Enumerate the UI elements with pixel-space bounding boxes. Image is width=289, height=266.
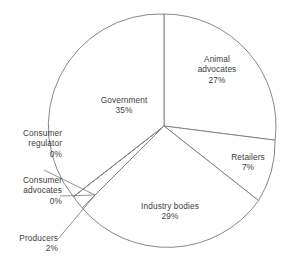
slice-label-name: Consumer xyxy=(0,128,62,138)
slice-label-value: 35% xyxy=(87,105,161,115)
slice-label-name: Retailers xyxy=(222,152,274,162)
slice-label-name-cont: regulator xyxy=(0,138,62,148)
slice-label-producers: Producers 2% xyxy=(0,233,58,254)
slice-label-name: Government xyxy=(87,95,161,105)
slice-label-retailers: Retailers 7% xyxy=(222,152,274,173)
slice-label-industry-bodies: Industry bodies 29% xyxy=(132,201,208,222)
slice-label-value: 2% xyxy=(0,243,58,253)
slice-label-value: 0% xyxy=(0,196,62,206)
slice-label-consumer-advocates: Consumer advocates 0% xyxy=(0,175,62,206)
slice-label-consumer-regulator: Consumer regulator 0% xyxy=(0,128,62,159)
slice-label-name-cont: advocates xyxy=(186,64,248,74)
slice-label-animal-advocates: Animal advocates 27% xyxy=(186,54,248,85)
slice-label-name: Industry bodies xyxy=(132,201,208,211)
slice-label-value: 7% xyxy=(222,162,274,172)
slice-label-value: 0% xyxy=(0,149,62,159)
slice-label-name: Animal xyxy=(186,54,248,64)
slice-label-name: Consumer xyxy=(0,175,62,185)
slice-label-value: 29% xyxy=(132,211,208,221)
pie-chart: Animal advocates 27% Government 35% Reta… xyxy=(0,0,289,266)
slice-label-value: 27% xyxy=(186,75,248,85)
slice-label-government: Government 35% xyxy=(87,95,161,116)
slice-label-name: Producers xyxy=(0,233,58,243)
slice-label-name-cont: advocates xyxy=(0,185,62,195)
